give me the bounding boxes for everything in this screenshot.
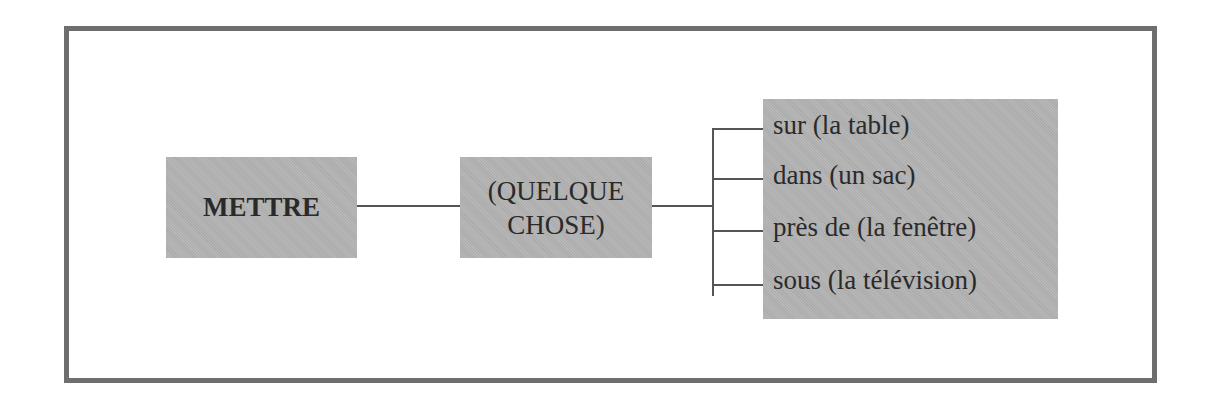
place-item: dans (un sac)	[773, 160, 915, 191]
bracket-vertical	[712, 128, 714, 296]
object-label-line2: CHOSE)	[507, 208, 605, 242]
connector-verb-object	[357, 205, 460, 207]
branch-1	[712, 128, 763, 130]
place-item: sur (la table)	[773, 110, 909, 141]
connector-object-bracket	[652, 205, 712, 207]
branch-2	[712, 178, 763, 180]
place-item: près de (la fenêtre)	[773, 212, 976, 243]
branch-3	[712, 230, 763, 232]
object-label-line1: (QUELQUE	[488, 174, 624, 208]
verb-box: METTRE	[166, 157, 357, 258]
branch-4	[712, 284, 763, 286]
places-box: sur (la table) dans (un sac) près de (la…	[763, 99, 1058, 319]
place-item: sous (la télévision)	[773, 265, 977, 296]
verb-label: METTRE	[203, 192, 320, 223]
object-box: (QUELQUE CHOSE)	[460, 157, 652, 258]
